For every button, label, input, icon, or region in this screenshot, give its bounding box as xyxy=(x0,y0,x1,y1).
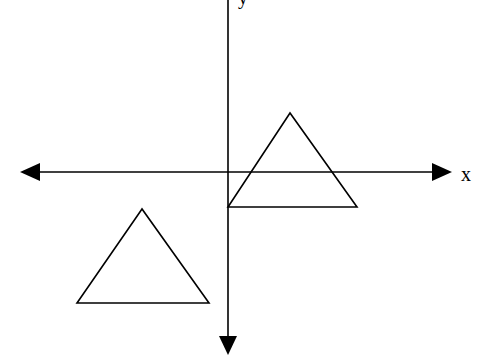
y-axis-label: y xyxy=(238,0,248,9)
y-axis-down-arrow-icon xyxy=(219,336,237,355)
diagram-canvas: x y xyxy=(0,0,480,356)
x-axis-left-arrow-icon xyxy=(20,163,40,181)
coordinate-diagram: x y xyxy=(0,0,480,356)
y-axis xyxy=(219,0,237,355)
x-axis-label: x xyxy=(461,163,471,185)
x-axis-right-arrow-icon xyxy=(432,163,452,181)
upper-right-triangle xyxy=(228,113,357,207)
x-axis xyxy=(20,163,452,181)
lower-left-triangle xyxy=(77,209,209,303)
